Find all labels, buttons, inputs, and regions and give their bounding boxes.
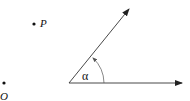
point-p-label: P bbox=[39, 17, 47, 29]
angle-arc bbox=[93, 58, 104, 83]
point-o-dot bbox=[2, 81, 5, 84]
angle-diagram: P O α bbox=[0, 0, 190, 101]
point-p-dot bbox=[32, 22, 35, 25]
diagonal-ray bbox=[69, 9, 129, 83]
angle-alpha-label: α bbox=[82, 69, 89, 83]
point-o-label: O bbox=[0, 90, 8, 101]
